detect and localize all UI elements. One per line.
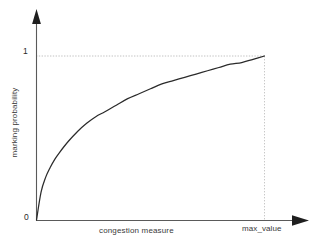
chart-plot-area (0, 0, 319, 248)
x-axis-arrow-icon (292, 215, 309, 226)
x-axis-label: congestion measure (99, 226, 174, 235)
origin-tick-label: 0 (24, 212, 29, 222)
x-tick-label-max-value: max_value (242, 224, 282, 233)
y-axis-arrow-icon (32, 9, 41, 24)
marking-probability-curve (37, 56, 265, 220)
y-tick-label-one: 1 (23, 46, 28, 56)
y-axis-label: marking probability (10, 73, 19, 173)
chart-figure: marking probability congestion measure 1… (0, 0, 319, 248)
